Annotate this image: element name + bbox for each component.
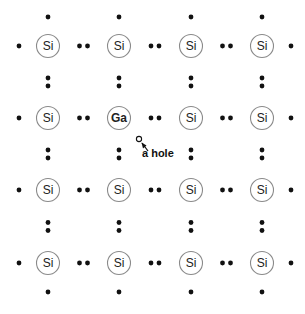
bond-electron (260, 76, 265, 81)
atom-si: Si (108, 35, 131, 58)
bond-electron (189, 228, 194, 233)
atom-si: Si (251, 252, 274, 275)
outer-electron (17, 261, 22, 266)
bond-electron (260, 156, 265, 161)
bond-electron (220, 44, 225, 49)
bond-electron (117, 148, 122, 153)
bond-electron (117, 84, 122, 89)
atom-si: Si (251, 35, 274, 58)
atom-symbol: Si (186, 39, 197, 53)
bond-electron (149, 44, 154, 49)
outer-electron (260, 15, 265, 20)
atom-si: Si (37, 252, 60, 275)
bond-electron (85, 116, 90, 121)
bond-electron (228, 261, 233, 266)
bond-electron (85, 44, 90, 49)
bond-electron (46, 228, 51, 233)
bond-electron (228, 188, 233, 193)
outer-electron (17, 44, 22, 49)
bond-electron (77, 116, 82, 121)
atom-si: Si (251, 107, 274, 130)
bond-electron (117, 156, 122, 161)
bond-electron (117, 76, 122, 81)
atom-symbol: Si (257, 39, 268, 53)
lattice-diagram: SiSiSiSiSiGaSiSiSiSiSiSiSiSiSiSi a hole (0, 0, 305, 314)
atom-symbol: Si (114, 256, 125, 270)
bond-electron (260, 84, 265, 89)
outer-electron (46, 15, 51, 20)
outer-electron (289, 188, 294, 193)
outer-electron (46, 290, 51, 295)
bond-electron (220, 261, 225, 266)
bond-electron (149, 188, 154, 193)
atom-si: Si (108, 252, 131, 275)
atom-si: Si (108, 179, 131, 202)
atom-symbol: Si (257, 256, 268, 270)
bond-electron (157, 116, 162, 121)
bond-electron (85, 188, 90, 193)
bond-electron (157, 261, 162, 266)
outer-electron (189, 15, 194, 20)
atom-symbol: Si (114, 183, 125, 197)
outer-electron (117, 290, 122, 295)
outer-electron (289, 116, 294, 121)
bond-electron (189, 76, 194, 81)
bond-electron (228, 116, 233, 121)
atom-symbol: Si (257, 183, 268, 197)
atom-si: Si (37, 35, 60, 58)
bond-electron (189, 156, 194, 161)
bond-electron (85, 261, 90, 266)
atom-si: Si (180, 252, 203, 275)
atom-si: Si (37, 107, 60, 130)
bond-electron (260, 220, 265, 225)
bond-electron (220, 188, 225, 193)
bond-electron (46, 148, 51, 153)
outer-electron (117, 15, 122, 20)
hole-label: a hole (142, 147, 174, 159)
bond-electron (77, 188, 82, 193)
bond-electron (157, 44, 162, 49)
bond-electron (189, 84, 194, 89)
atom-symbol: Si (43, 183, 54, 197)
atom-symbol: Si (114, 39, 125, 53)
bond-electron (220, 116, 225, 121)
bond-electron (46, 84, 51, 89)
outer-electron (289, 44, 294, 49)
atom-si: Si (251, 179, 274, 202)
bond-electron (149, 116, 154, 121)
bond-electron (77, 44, 82, 49)
atom-si: Si (180, 35, 203, 58)
atom-symbol: Si (186, 111, 197, 125)
atom-si: Si (37, 179, 60, 202)
hole-annotation: a hole (136, 136, 173, 159)
atom-symbol: Si (257, 111, 268, 125)
atom-symbol: Si (43, 111, 54, 125)
hole-marker-icon (136, 136, 141, 141)
atom-symbol: Si (186, 183, 197, 197)
bond-electron (46, 220, 51, 225)
bond-electron (46, 156, 51, 161)
bond-electron (260, 228, 265, 233)
atom-si: Si (180, 179, 203, 202)
bond-electron (228, 44, 233, 49)
bond-electron (189, 220, 194, 225)
bond-electron (46, 76, 51, 81)
atom-symbol: Ga (111, 111, 127, 125)
atom-ga: Ga (108, 107, 131, 130)
outer-electron (289, 261, 294, 266)
outer-electron (260, 290, 265, 295)
bond-electron (117, 220, 122, 225)
bond-electron (157, 188, 162, 193)
bond-electron (149, 261, 154, 266)
outer-electron (17, 116, 22, 121)
bond-electron (77, 261, 82, 266)
atom-symbol: Si (43, 256, 54, 270)
bond-electron (117, 228, 122, 233)
atom-symbol: Si (43, 39, 54, 53)
outer-electron (189, 290, 194, 295)
bond-electron (260, 148, 265, 153)
bond-electron (189, 148, 194, 153)
outer-electron (17, 188, 22, 193)
atom-symbol: Si (186, 256, 197, 270)
atom-si: Si (180, 107, 203, 130)
